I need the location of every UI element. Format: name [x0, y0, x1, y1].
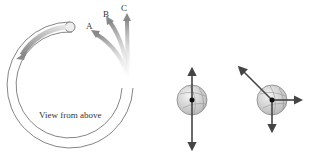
motion-arrow-icon: [16, 27, 66, 60]
caption-view-from-above: View from above: [39, 110, 101, 120]
force-up-left-arrow: [240, 68, 272, 100]
path-arrows: [91, 13, 131, 80]
physics-diagram: A B C View from above: [0, 0, 310, 164]
curved-tube: [7, 22, 133, 148]
label-c: C: [121, 3, 127, 13]
tube-end-opening: [65, 22, 75, 32]
ball-vertical-forces: [177, 70, 207, 148]
label-a: A: [86, 21, 93, 31]
ball-three-forces: [240, 68, 300, 130]
label-b: B: [103, 9, 109, 19]
